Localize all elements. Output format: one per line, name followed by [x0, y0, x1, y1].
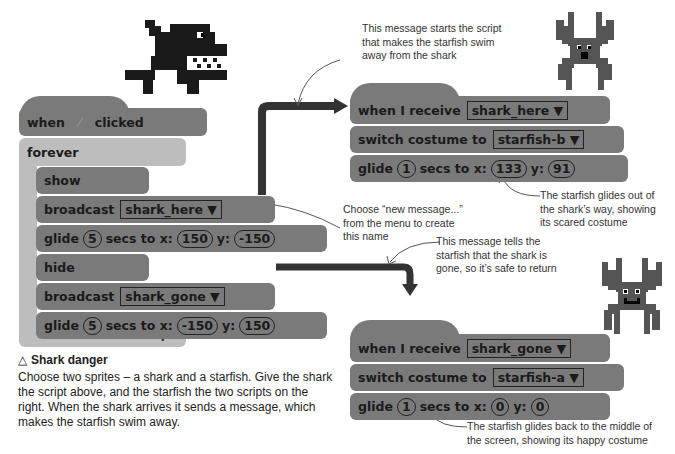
glide-block-4[interactable]: glide 1 secs to x: 0 y: 0: [350, 393, 610, 420]
y-label: y:: [513, 399, 526, 414]
when-i-receive-shark-gone-block[interactable]: when I receive shark_gone ▼: [350, 334, 610, 362]
show-label: show: [44, 173, 80, 188]
secs-input[interactable]: 1: [397, 160, 416, 178]
annotation-shark-here: This message starts the scriptthat makes…: [362, 22, 501, 63]
costume-dropdown[interactable]: starfish-b ▼: [493, 130, 585, 149]
y-input[interactable]: 150: [239, 317, 275, 335]
y-input[interactable]: 0: [531, 398, 550, 416]
costume-dropdown[interactable]: starfish-a ▼: [493, 368, 584, 387]
y-input[interactable]: 91: [548, 160, 575, 178]
y-label: y:: [217, 231, 230, 246]
secs-input[interactable]: 5: [83, 230, 102, 248]
caption-body: Choose two sprites – a shark and a starf…: [18, 370, 332, 430]
y-label: y:: [222, 318, 235, 333]
message-dropdown[interactable]: shark_here ▼: [467, 101, 569, 120]
secs-label: secs to x:: [106, 231, 173, 246]
secs-label: secs to x:: [106, 318, 173, 333]
y-input[interactable]: -150: [234, 230, 275, 248]
secs-input[interactable]: 1: [397, 398, 416, 416]
annotation-scared-glide: The starfish glides out ofthe shark’s wa…: [540, 189, 656, 230]
y-label: y:: [531, 161, 544, 176]
broadcast-label: broadcast: [44, 202, 114, 217]
when-i-receive-label: when I receive: [358, 103, 461, 118]
message-dropdown[interactable]: shark_gone ▼: [120, 287, 224, 306]
broadcast-shark-here-block[interactable]: broadcast shark_here ▼: [36, 196, 275, 223]
triangle-icon: △: [18, 353, 27, 367]
x-input[interactable]: 133: [491, 160, 527, 178]
forever-block[interactable]: forever: [19, 138, 186, 166]
secs-label: secs to x:: [420, 161, 487, 176]
x-input[interactable]: 0: [491, 398, 510, 416]
glide-label: glide: [358, 161, 393, 176]
secs-label: secs to x:: [420, 399, 487, 414]
annotation-happy-glide: The starfish glides back to the middle o…: [467, 420, 652, 447]
forever-label: forever: [27, 145, 78, 160]
hide-label: hide: [44, 260, 75, 275]
glide-block-2[interactable]: glide 5 secs to x: -150 y: 150: [36, 312, 327, 339]
green-flag-icon: ⁄: [65, 115, 95, 130]
switch-costume-block-1[interactable]: switch costume to starfish-b ▼: [350, 126, 624, 153]
switch-costume-block-2[interactable]: switch costume to starfish-a ▼: [350, 364, 624, 391]
glide-label: glide: [358, 399, 393, 414]
clicked-label: clicked: [95, 115, 144, 130]
message-dropdown[interactable]: shark_gone ▼: [467, 339, 571, 358]
broadcast-shark-gone-block[interactable]: broadcast shark_gone ▼: [36, 283, 275, 310]
switch-costume-label: switch costume to: [358, 370, 487, 385]
annotation-shark-gone: This message tells thestarfish that the …: [436, 235, 557, 276]
broadcast-label: broadcast: [44, 289, 114, 304]
caption-title: △Shark danger: [18, 353, 108, 367]
glide-label: glide: [44, 318, 79, 333]
forever-arm: [19, 160, 37, 330]
when-i-receive-label: when I receive: [358, 341, 461, 356]
glide-label: glide: [44, 231, 79, 246]
hide-block[interactable]: hide: [36, 254, 149, 281]
glide-block-1[interactable]: glide 5 secs to x: 150 y: -150: [36, 225, 327, 252]
x-input[interactable]: -150: [177, 317, 218, 335]
when-i-receive-shark-here-block[interactable]: when I receive shark_here ▼: [350, 96, 610, 124]
when-flag-clicked-block[interactable]: when ⁄ clicked: [19, 108, 207, 136]
message-dropdown[interactable]: shark_here ▼: [120, 200, 222, 219]
secs-input[interactable]: 5: [83, 317, 102, 335]
switch-costume-label: switch costume to: [358, 132, 487, 147]
glide-block-3[interactable]: glide 1 secs to x: 133 y: 91: [350, 155, 628, 182]
show-block[interactable]: show: [36, 167, 149, 194]
x-input[interactable]: 150: [177, 230, 213, 248]
when-label: when: [27, 115, 65, 130]
